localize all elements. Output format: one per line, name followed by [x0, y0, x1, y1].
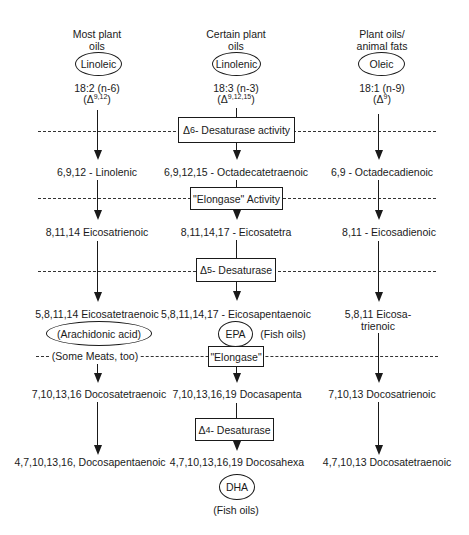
enzyme-label: - Desaturase: [210, 424, 270, 436]
right-source-line2: animal fats: [357, 40, 408, 52]
left-line-2: [97, 180, 98, 211]
right-step4: 7,10,13 Docosatrienoic: [328, 388, 435, 400]
right-line-2: [378, 180, 379, 211]
some-meats-note: (Some Meats, too): [50, 350, 140, 362]
right-step1: 6,9 - Octadecadienoic: [331, 166, 433, 178]
dha-fish-oils-note: (Fish oils): [213, 504, 259, 516]
enzyme-label: - Desaturase activity: [195, 124, 290, 136]
right-delta: (Δ9): [373, 93, 391, 105]
delta-symbol: Δ: [200, 264, 207, 276]
left-delta: (Δ9,12): [83, 93, 111, 105]
middle-step1: 6,9,12,15 - Octadecatetraenoic: [164, 166, 308, 178]
left-source-line2: oils: [73, 40, 121, 52]
arachidonic-acid-ellipse: (Arachidonic acid): [46, 321, 152, 346]
enzyme-box-elongase: "Elongase": [208, 346, 264, 367]
right-arrow-2: [375, 210, 383, 220]
middle-arrow-2: [233, 210, 241, 220]
left-arrow-5: [94, 445, 102, 455]
left-precursor-label: Linoleic: [81, 58, 117, 70]
right-precursor-label: Oleic: [370, 58, 394, 70]
right-source-line1: Plant oils/: [357, 28, 408, 40]
left-source-line1: Most plant: [73, 28, 121, 40]
right-arrow-3: [375, 292, 383, 302]
middle-delta: (Δ9,12,15): [217, 93, 254, 105]
delta-symbol: Δ: [198, 424, 205, 436]
right-arrow-1: [375, 150, 383, 160]
right-step2: 8,11 - Eicosadienoic: [342, 226, 436, 238]
right-precursor-ellipse: Oleic: [358, 52, 405, 76]
left-source: Most plant oils: [73, 28, 121, 52]
middle-arrow-5: [233, 441, 241, 451]
right-arrow-5: [375, 445, 383, 455]
right-line-4: [378, 333, 379, 374]
left-line-3: [97, 241, 98, 293]
middle-precursor-ellipse: Linolenic: [212, 52, 261, 76]
left-step5: 4,7,10,13,16, Docosapentaenoic: [14, 456, 165, 468]
middle-source-line2: oils: [206, 40, 266, 52]
middle-arrow-4: [233, 373, 241, 383]
delta-symbol: Δ: [183, 124, 190, 136]
dha-ellipse: DHA: [219, 474, 255, 500]
left-arrow-3: [94, 292, 102, 302]
right-source: Plant oils/ animal fats: [357, 28, 408, 52]
fatty-acid-pathway-diagram: Most plant oils Linoleic 18:2 (n-6) (Δ9,…: [0, 0, 469, 535]
left-step2: 8,11,14 Eicosatrienoic: [46, 226, 149, 238]
left-line-1: [97, 110, 98, 152]
left-step3: 5,8,11,14 Eicosatetraenoic: [35, 308, 159, 320]
enzyme-box-elongase-activity: "Elongase" Activity: [190, 187, 283, 210]
right-line-3: [378, 241, 379, 293]
left-arrow-4: [94, 373, 102, 383]
enzyme-label: "Elongase": [210, 351, 261, 363]
epa-label: EPA: [225, 328, 245, 340]
dha-label: DHA: [226, 481, 248, 493]
middle-step2: 8,11,14,17 - Eicosatetra: [181, 226, 292, 238]
middle-arrow-1: [233, 150, 241, 160]
middle-line-5a: [236, 403, 237, 419]
enzyme-box-desaturase6: Δ6 - Desaturase activity: [178, 117, 295, 143]
middle-step5: 4,7,10,13,16,19 Docosahexa: [170, 456, 304, 468]
middle-arrow-3: [233, 291, 241, 301]
middle-source: Certain plant oils: [206, 28, 266, 52]
left-arrow-1: [94, 150, 102, 160]
right-line-1: [378, 114, 379, 152]
right-step3: 5,8,11 Eicosa- trienoic: [345, 308, 411, 332]
middle-precursor-label: Linolenic: [216, 58, 257, 70]
right-arrow-4: [375, 373, 383, 383]
epa-fish-oils-note: (Fish oils): [260, 328, 306, 340]
enzyme-box-desaturase5: Δ5 - Desaturase: [196, 258, 276, 282]
middle-step4: 7,10,13,16,19 Docasapenta: [172, 388, 301, 400]
arachidonic-acid-label: (Arachidonic acid): [57, 328, 141, 340]
right-line-5: [378, 402, 379, 447]
left-step4: 7,10,13,16 Docosatetraenoic: [32, 388, 166, 400]
middle-source-line1: Certain plant: [206, 28, 266, 40]
enzyme-label: - Desaturase: [212, 264, 272, 276]
middle-line-3a: [236, 240, 237, 259]
enzyme-label: "Elongase" Activity: [193, 193, 280, 205]
right-step3-line1: 5,8,11 Eicosa-: [345, 308, 411, 320]
left-precursor-ellipse: Linoleic: [75, 52, 122, 76]
left-arrow-2: [94, 210, 102, 220]
epa-ellipse: EPA: [218, 321, 253, 347]
middle-step3: 5,8,11,14,17 - Eicosapentaenoic: [161, 308, 311, 320]
left-step1: 6,9,12 - Linolenic: [57, 166, 137, 178]
right-step5: 4,7,10,13 Docosatetraenoic: [323, 456, 451, 468]
left-line-5: [97, 402, 98, 447]
right-step3-line2: trienoic: [345, 320, 411, 332]
enzyme-box-desaturase4: Δ4 - Desaturase: [195, 418, 274, 441]
